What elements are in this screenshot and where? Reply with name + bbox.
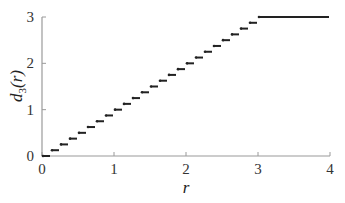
step-start-dot	[141, 91, 144, 94]
y-tick-label: 0	[27, 148, 35, 164]
y-tick-label: 2	[27, 55, 35, 71]
step-start-dot	[240, 27, 243, 30]
step-start-dot	[42, 155, 45, 158]
step-start-dot	[159, 79, 162, 82]
y-axis-label: d3(r)	[7, 70, 28, 102]
x-tick-label: 2	[182, 161, 190, 177]
step-start-dot	[231, 33, 234, 36]
axes: 012340123	[27, 9, 335, 177]
step-start-dot	[195, 56, 198, 59]
step-start-dot	[51, 149, 54, 152]
y-tick-label: 3	[27, 9, 35, 25]
x-tick-label: 4	[326, 161, 334, 177]
x-axis-label: r	[183, 178, 190, 197]
step-start-dot	[204, 50, 207, 53]
step-start-dot	[96, 120, 99, 123]
data-series	[42, 16, 329, 158]
y-tick-label: 1	[27, 102, 35, 118]
step-start-dot	[78, 132, 81, 135]
step-start-dot	[258, 16, 261, 19]
step-start-dot	[177, 68, 180, 71]
step-start-dot	[87, 126, 90, 129]
step-start-dot	[150, 85, 153, 88]
x-tick-label: 3	[254, 161, 262, 177]
step-start-dot	[114, 108, 117, 111]
step-start-dot	[60, 143, 63, 146]
step-start-dot	[186, 62, 189, 65]
step-start-dot	[69, 137, 72, 140]
x-tick-label: 1	[110, 161, 118, 177]
step-chart: 012340123 r d3(r)	[0, 0, 345, 203]
step-start-dot	[222, 39, 225, 42]
axis-labels: r d3(r)	[7, 70, 190, 197]
step-start-dot	[213, 45, 216, 48]
step-start-dot	[105, 114, 108, 117]
step-start-dot	[132, 97, 135, 100]
x-tick-label: 0	[38, 161, 46, 177]
step-start-dot	[168, 74, 171, 77]
step-start-dot	[249, 21, 252, 24]
step-start-dot	[123, 103, 126, 106]
